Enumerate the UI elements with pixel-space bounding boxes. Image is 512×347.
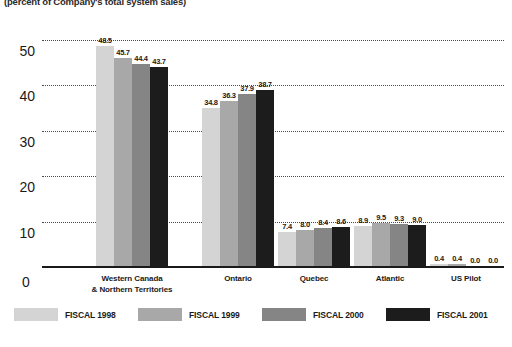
bar[interactable] (408, 225, 426, 266)
bar-group: 7.48.08.48.6 (278, 227, 350, 266)
legend-label: FISCAL 2000 (313, 310, 364, 320)
x-axis-baseline (42, 266, 504, 268)
legend-item[interactable]: FISCAL 2001 (386, 308, 510, 321)
bar-group: 0.40.40.00.0 (430, 264, 502, 266)
legend-item[interactable]: FISCAL 2000 (262, 308, 386, 321)
bar[interactable] (220, 101, 238, 266)
bar-value-label: 0.4 (434, 254, 444, 263)
bar-value-label: 34.8 (204, 98, 217, 107)
chart-legend: FISCAL 1998FISCAL 1999FISCAL 2000FISCAL … (0, 308, 512, 321)
bar-wrap: 8.6 (332, 227, 350, 266)
bar-wrap: 8.0 (296, 230, 314, 266)
bar-wrap: 36.3 (220, 101, 238, 266)
bar-value-label: 43.7 (152, 57, 165, 66)
bar-wrap: 34.8 (202, 108, 220, 266)
bar-group: 48.545.744.443.7 (96, 46, 168, 266)
bar-wrap: 0.4 (448, 264, 466, 266)
legend-label: FISCAL 1999 (189, 310, 240, 320)
bar[interactable] (296, 230, 314, 266)
y-axis-tick-label: 20 (19, 179, 35, 195)
bar[interactable] (202, 108, 220, 266)
bar-wrap: 9.0 (408, 225, 426, 266)
bar[interactable] (256, 90, 274, 266)
bar-value-label: 9.0 (412, 215, 422, 224)
legend-label: FISCAL 1998 (65, 310, 116, 320)
bar[interactable] (372, 223, 390, 266)
legend-label: FISCAL 2001 (437, 310, 488, 320)
x-axis-category-line: US Pilot (386, 274, 512, 285)
bar-value-label: 9.3 (394, 214, 404, 223)
bar-wrap: 9.3 (390, 224, 408, 266)
legend-item[interactable]: FISCAL 1998 (14, 308, 138, 321)
bar-wrap: 43.7 (150, 67, 168, 266)
bar-wrap: 37.9 (238, 94, 256, 266)
bar-value-label: 44.4 (134, 54, 147, 63)
x-axis-category-label: US Pilot (386, 274, 512, 285)
bar-group: 8.99.59.39.0 (354, 223, 426, 266)
bar[interactable] (430, 264, 448, 266)
bar-value-label: 48.5 (98, 36, 111, 45)
bar[interactable] (354, 226, 372, 266)
chart-subtitle: (percent of Company's total system sales… (4, 0, 186, 7)
bar-wrap: 0.4 (430, 264, 448, 266)
bar-wrap: 8.4 (314, 228, 332, 266)
legend-swatch (386, 308, 430, 321)
bar-wrap: 44.4 (132, 64, 150, 266)
bar[interactable] (332, 227, 350, 266)
bar-value-label: 0.0 (488, 256, 498, 265)
bar-value-label: 38.7 (258, 80, 271, 89)
bar-wrap: 8.9 (354, 226, 372, 266)
bar-chart: (percent of Company's total system sales… (0, 0, 512, 347)
legend-swatch (138, 308, 182, 321)
y-axis-tick-label: 40 (19, 88, 35, 104)
bar[interactable] (278, 232, 296, 266)
x-axis-category-line: & Northern Territories (52, 285, 212, 296)
bar-value-label: 9.5 (376, 213, 386, 222)
legend-item[interactable]: FISCAL 1999 (138, 308, 262, 321)
bar[interactable] (448, 264, 466, 266)
bar-value-label: 0.4 (452, 254, 462, 263)
bar-value-label: 37.9 (240, 84, 253, 93)
y-axis-tick-zero: 0 (22, 274, 30, 290)
y-axis-tick-label: 50 (19, 43, 35, 59)
legend-swatch (14, 308, 58, 321)
bar-value-label: 8.0 (300, 220, 310, 229)
bar-wrap: 7.4 (278, 232, 296, 266)
bar-value-label: 8.6 (336, 217, 346, 226)
plot-area: 102030405048.545.744.443.734.836.337.938… (42, 18, 504, 268)
legend-swatch (262, 308, 306, 321)
bar[interactable] (150, 67, 168, 266)
bar-wrap: 9.5 (372, 223, 390, 266)
bar-wrap: 48.5 (96, 46, 114, 266)
bar-value-label: 45.7 (116, 48, 129, 57)
bar[interactable] (114, 58, 132, 266)
bar[interactable] (132, 64, 150, 266)
bar-value-label: 36.3 (222, 91, 235, 100)
y-axis-tick-label: 30 (19, 134, 35, 150)
bar-wrap: 45.7 (114, 58, 132, 266)
bar[interactable] (390, 224, 408, 266)
bar[interactable] (96, 46, 114, 266)
bar-wrap: 38.7 (256, 90, 274, 266)
bar[interactable] (238, 94, 256, 266)
bar-value-label: 8.4 (318, 218, 328, 227)
bar-group: 34.836.337.938.7 (202, 90, 274, 266)
bar[interactable] (314, 228, 332, 266)
bar-value-label: 7.4 (282, 222, 292, 231)
bar-value-label: 0.0 (470, 256, 480, 265)
y-axis-tick-label: 10 (19, 225, 35, 241)
bar-value-label: 8.9 (358, 216, 368, 225)
